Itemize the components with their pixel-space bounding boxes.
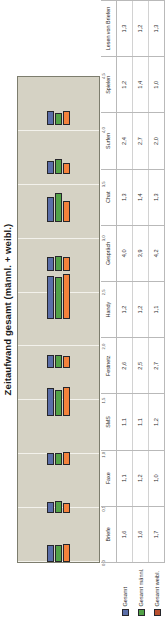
bar-cluster — [18, 223, 99, 272]
bar[interactable] — [63, 387, 70, 416]
bar[interactable] — [63, 257, 70, 271]
table-column: Gespräch4,03,94,2 — [101, 225, 165, 281]
bar[interactable] — [47, 545, 54, 562]
table-cell: 1,1 — [133, 394, 149, 449]
bar[interactable] — [55, 277, 62, 319]
bar-cluster — [18, 126, 99, 175]
table-cell: 1,1 — [149, 282, 165, 337]
table-cell: 3,9 — [133, 226, 149, 281]
table-cell: 1,2 — [117, 57, 133, 112]
chart-canvas: Zeitaufwand gesamt (männl. + weibl.) 0,0… — [0, 0, 166, 619]
table-cell: 1,6 — [117, 507, 133, 562]
table-category-header: Surfen — [101, 113, 117, 168]
bar-cluster — [18, 417, 99, 466]
bar[interactable] — [47, 197, 54, 223]
table-cell: 1,7 — [149, 507, 165, 562]
table-cell: 2,7 — [133, 113, 149, 168]
table-cell: 2,5 — [133, 338, 149, 393]
table-column: SMS1,11,11,2 — [101, 393, 165, 449]
bar-cluster — [18, 174, 99, 223]
table-cell: 1,2 — [133, 451, 149, 506]
table-category-header: Briefe — [101, 507, 117, 562]
bar-chart-figure: Zeitaufwand gesamt (männl. + weibl.) 0,0… — [0, 0, 166, 619]
bar-cluster — [18, 514, 99, 563]
bar[interactable] — [47, 388, 54, 416]
bar[interactable] — [55, 501, 62, 514]
table-column: Surfen2,42,72,0 — [101, 112, 165, 168]
plot-area — [17, 76, 100, 563]
bar[interactable] — [63, 544, 70, 562]
bar-clusters — [18, 77, 99, 562]
table-column: Chat1,31,41,3 — [101, 169, 165, 225]
bar-cluster — [18, 271, 99, 320]
bar[interactable] — [55, 355, 62, 368]
table-cell: 1,3 — [117, 170, 133, 225]
table-category-header: Gespräch — [101, 226, 117, 281]
table-cell: 1,4 — [133, 57, 149, 112]
legend-spacer — [101, 563, 117, 619]
table-cell: 1,3 — [149, 1, 165, 56]
bar[interactable] — [47, 502, 54, 514]
table-category-header: Handy — [101, 282, 117, 337]
legend-label: Gesamt weibl. — [154, 571, 160, 606]
bar[interactable] — [63, 201, 70, 223]
table-cell: 1,2 — [133, 282, 149, 337]
data-table-legend: Gesamt Gesamt männl. Gesamt weibl. — [101, 563, 165, 619]
bar[interactable] — [63, 112, 70, 126]
table-cell: 1,1 — [117, 394, 133, 449]
table-column: Faxe1,11,21,0 — [101, 450, 165, 506]
table-cell: 1,2 — [117, 282, 133, 337]
bar[interactable] — [47, 112, 54, 126]
table-cell: 2,4 — [117, 113, 133, 168]
table-cell: 2,6 — [117, 338, 133, 393]
table-category-header: SMS — [101, 394, 117, 449]
table-category-header: Lesen von Briefen — [101, 1, 117, 56]
table-cell: 4,2 — [149, 226, 165, 281]
bar[interactable] — [55, 193, 62, 222]
table-cell: 2,7 — [149, 338, 165, 393]
table-cell: 1,2 — [149, 394, 165, 449]
bar[interactable] — [47, 276, 54, 319]
legend-swatch-icon — [138, 609, 145, 616]
legend-item-2[interactable]: Gesamt weibl. — [149, 563, 165, 619]
bar[interactable] — [55, 113, 62, 126]
table-cell: 1,0 — [149, 451, 165, 506]
bar[interactable] — [47, 355, 54, 368]
bar[interactable] — [55, 453, 62, 465]
bar[interactable] — [47, 161, 54, 174]
table-cell: 1,4 — [133, 170, 149, 225]
bar[interactable] — [55, 390, 62, 417]
chart-title: Zeitaufwand gesamt (männl. + weibl.) — [2, 0, 13, 619]
table-cell: 2,0 — [149, 113, 165, 168]
bar[interactable] — [63, 274, 70, 319]
legend-item-0[interactable]: Gesamt — [117, 563, 133, 619]
bar-cluster — [18, 368, 99, 417]
table-cell: 1,3 — [117, 1, 133, 56]
table-category-header: Festnetz — [101, 338, 117, 393]
bar[interactable] — [63, 503, 70, 514]
bar[interactable] — [47, 453, 54, 465]
legend-label: Gesamt — [122, 587, 128, 607]
bar-cluster — [18, 320, 99, 369]
legend-item-1[interactable]: Gesamt männl. — [133, 563, 149, 619]
table-cell: 1,3 — [149, 170, 165, 225]
legend-label: Gesamt männl. — [138, 569, 144, 607]
bar[interactable] — [55, 545, 62, 562]
bar[interactable] — [63, 452, 70, 465]
table-column: Festnetz2,62,52,7 — [101, 337, 165, 393]
bar-cluster — [18, 77, 99, 126]
legend-swatch-icon — [154, 609, 161, 616]
table-category-header: Faxe — [101, 451, 117, 506]
bar[interactable] — [47, 257, 54, 271]
table-category-header: Chat — [101, 170, 117, 225]
bar[interactable] — [55, 159, 62, 174]
table-column: Spielen1,21,41,0 — [101, 56, 165, 112]
table-cell: 1,0 — [149, 57, 165, 112]
data-table: Gesamt Gesamt männl. Gesamt weibl. Brief… — [101, 0, 165, 619]
bar-cluster — [18, 465, 99, 514]
bar[interactable] — [55, 256, 62, 271]
bar[interactable] — [63, 356, 70, 368]
legend-swatch-icon — [122, 609, 129, 616]
bar[interactable] — [63, 163, 70, 174]
table-cell: 1,1 — [117, 451, 133, 506]
